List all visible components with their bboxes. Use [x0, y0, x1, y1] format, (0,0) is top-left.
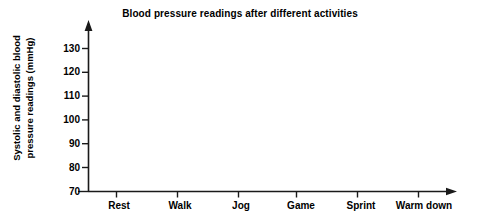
- chart-container: Blood pressure readings after different …: [0, 0, 480, 218]
- x-tick-label-walk: Walk: [169, 200, 192, 212]
- x-tick-label-game: Game: [287, 200, 315, 212]
- x-tick-label-rest: Rest: [108, 200, 130, 212]
- x-tick-label-jog: Jog: [232, 200, 250, 212]
- x-tick-labels: Rest Walk Jog Game Sprint Warm down: [0, 0, 480, 218]
- x-tick-label-sprint: Sprint: [347, 200, 376, 212]
- x-tick-label-warm-down: Warm down: [396, 200, 452, 212]
